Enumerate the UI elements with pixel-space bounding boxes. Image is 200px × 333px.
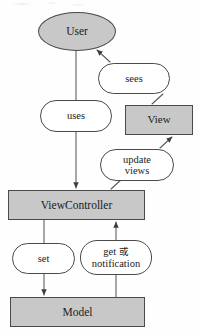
node-get-notification[interactable]: get 或 notification [80,240,152,275]
edge-sees-user [97,50,110,62]
node-get-notification-label: get 或 notification [92,246,140,269]
node-uses[interactable]: uses [40,100,112,132]
node-sees[interactable]: sees [98,63,170,94]
node-user[interactable]: User [38,12,116,51]
node-view-label: View [147,114,170,126]
node-user-label: User [66,25,88,37]
node-update-views-line2: views [123,165,151,176]
diagram-page: User sees uses View update views ViewCon… [0,0,200,333]
node-set-label: set [38,253,50,264]
node-model[interactable]: Model [10,297,145,327]
edge-update-view [160,137,172,148]
node-set[interactable]: set [12,243,75,274]
node-viewcontroller-label: ViewController [41,199,113,211]
node-update-views[interactable]: update views [100,149,174,181]
node-uses-label: uses [67,110,85,121]
node-viewcontroller[interactable]: ViewController [8,190,145,220]
node-get-notification-line1-text: get [103,246,118,257]
node-get-notification-line1-cjk: 或 [119,246,129,257]
node-get-notification-line1: get 或 [92,246,140,257]
node-view[interactable]: View [125,105,193,135]
edge-view-sees [152,94,163,104]
node-model-label: Model [62,306,92,318]
node-update-views-label: update views [123,154,151,177]
node-get-notification-line2: notification [92,258,140,269]
node-update-views-line1: update [123,154,151,165]
node-sees-label: sees [125,73,143,84]
